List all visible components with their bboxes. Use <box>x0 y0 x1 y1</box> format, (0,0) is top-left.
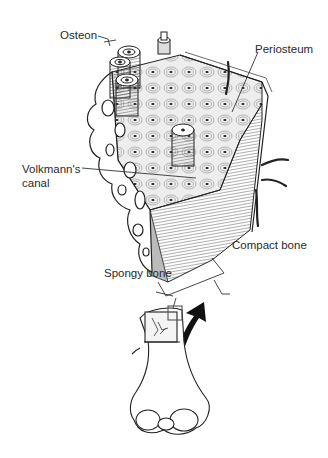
osteon-label: Osteon <box>60 29 97 42</box>
bone-diagram <box>0 0 328 458</box>
spongy-bone-label: Spongy bone <box>104 267 172 280</box>
compact-bone-label: Compact bone <box>232 239 307 252</box>
periosteum-label: Periosteum <box>255 43 313 56</box>
volkmanns-canal-label-line2: canal <box>22 177 50 190</box>
femur-illustration <box>130 306 209 434</box>
volkmanns-canal-label-line1: Volkmann's <box>22 163 80 176</box>
